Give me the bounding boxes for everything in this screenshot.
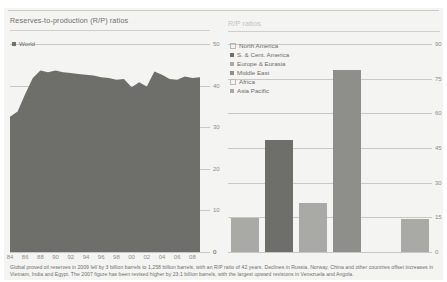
top-divider: [8, 10, 439, 11]
bar: [231, 218, 258, 252]
legend-item: Europe & Eurasia: [230, 60, 289, 68]
legend-swatch-icon: [230, 43, 236, 49]
y-axis-tick-label: 10: [213, 207, 220, 213]
y-axis-tick-label: 90: [435, 41, 442, 47]
y-axis-tick-label: 20: [213, 166, 220, 172]
legend-swatch-icon: [230, 71, 234, 75]
y-axis-tick-label: 40: [213, 83, 220, 89]
y-axis-tick-label: 15: [435, 214, 442, 220]
x-axis-tick-label: 02: [143, 254, 150, 260]
x-axis-tick-label: 84: [7, 254, 14, 260]
legend-label: S. & Cent. America: [237, 51, 289, 59]
legend-label: World: [19, 40, 35, 48]
x-axis-tick-label: 88: [37, 254, 44, 260]
gridline: [228, 252, 432, 253]
legend-swatch-icon: [12, 42, 16, 46]
legend-item: Africa: [230, 78, 289, 86]
bar: [265, 140, 292, 252]
gridline: [10, 252, 210, 253]
right-chart-legend: North AmericaS. & Cent. AmericaEurope & …: [230, 42, 289, 96]
x-axis-tick-label: 96: [98, 254, 105, 260]
gridline: [228, 148, 432, 149]
legend-item: North America: [230, 42, 289, 50]
legend-label: Middle East: [237, 69, 269, 77]
y-axis-tick-label: 60: [435, 110, 442, 116]
x-axis-tick-label: 90: [52, 254, 59, 260]
y-axis-tick-label: 0: [213, 249, 216, 255]
legend-label: North America: [239, 42, 278, 50]
x-axis-tick-label: 00: [128, 254, 135, 260]
bar: [401, 219, 428, 253]
legend-item: World: [12, 40, 35, 48]
y-axis-tick-label: 45: [435, 145, 442, 151]
left-title-divider: [10, 30, 210, 31]
world-area-series: [10, 44, 210, 252]
bar: [333, 70, 360, 252]
world-area-path: [10, 71, 200, 252]
legend-item: Middle East: [230, 69, 289, 77]
legend-item: S. & Cent. America: [230, 51, 289, 59]
x-axis-tick-label: 04: [159, 254, 166, 260]
legend-label: Asia Pacific: [237, 87, 269, 95]
y-axis-tick-label: 0: [435, 249, 438, 255]
regional-rp-bar-chart: 0153045607590 North AmericaS. & Cent. Am…: [228, 44, 432, 252]
left-panel-title: Reserves-to-production (R/P) ratios: [10, 16, 128, 25]
figure-page: Reserves-to-production (R/P) ratios 0102…: [0, 0, 447, 282]
right-panel-title: R/P ratios: [228, 19, 261, 28]
legend-swatch-icon: [230, 53, 234, 57]
legend-swatch-icon: [230, 62, 234, 66]
figure-caption: Global proved oil reserves in 2009 fell …: [10, 264, 438, 278]
y-axis-tick-label: 50: [213, 41, 220, 47]
legend-swatch-icon: [230, 79, 236, 85]
x-axis-tick-label: 92: [67, 254, 74, 260]
x-axis-tick-label: 98: [113, 254, 120, 260]
y-axis-tick-label: 30: [435, 180, 442, 186]
x-axis-tick-label: 08: [189, 254, 196, 260]
world-rp-area-chart: 010203040500 84868890929496980002040608 …: [10, 44, 210, 252]
right-title-divider: [228, 31, 440, 32]
gridline: [228, 183, 432, 184]
x-axis-tick-label: 06: [174, 254, 181, 260]
left-chart-legend: World: [12, 40, 35, 49]
x-axis-tick-label: 86: [22, 254, 29, 260]
legend-swatch-icon: [230, 89, 234, 93]
y-axis-tick-label: 75: [435, 76, 442, 82]
legend-label: Europe & Eurasia: [237, 60, 286, 68]
x-axis-tick-label: 94: [83, 254, 90, 260]
legend-label: Africa: [239, 78, 255, 86]
gridline: [228, 113, 432, 114]
y-axis-tick-label: 30: [213, 124, 220, 130]
legend-item: Asia Pacific: [230, 87, 289, 95]
bar: [299, 203, 326, 252]
